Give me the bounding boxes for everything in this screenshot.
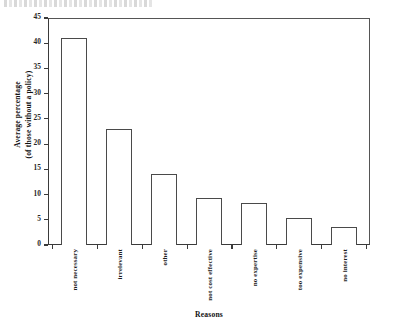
x-axis-category-label: no interest xyxy=(340,249,347,282)
bar[interactable] xyxy=(331,227,357,245)
y-tick-label: 10 xyxy=(33,189,41,198)
bar[interactable] xyxy=(196,198,222,245)
x-label-slot: not necessary xyxy=(52,247,97,309)
bar[interactable] xyxy=(241,203,267,245)
x-label-slot: no interest xyxy=(321,247,366,309)
bar[interactable] xyxy=(286,218,312,245)
x-label-slot: no expertise xyxy=(231,247,276,309)
y-tick-label: 35 xyxy=(33,62,41,71)
bar[interactable] xyxy=(151,174,177,245)
x-axis-category-label: not cost effective xyxy=(206,249,213,301)
y-tick-label: 15 xyxy=(33,163,41,172)
y-tick-label: 0 xyxy=(37,239,41,248)
x-axis-category-label: no expertise xyxy=(250,249,257,286)
bar-slot xyxy=(276,18,321,245)
y-tick-label: 45 xyxy=(33,12,41,21)
bar-series xyxy=(48,18,370,245)
bar-slot xyxy=(52,18,97,245)
bar-chart-figure: Average percentage (of those without a p… xyxy=(0,0,396,324)
x-axis-category-label: irrelevant xyxy=(116,249,123,279)
y-tick-label: 25 xyxy=(33,113,41,122)
x-axis-category-label: other xyxy=(161,249,168,265)
y-tick-label: 5 xyxy=(37,214,41,223)
x-axis-title: Reasons xyxy=(48,310,370,319)
y-tick-label: 20 xyxy=(33,138,41,147)
bar-slot xyxy=(142,18,187,245)
x-label-slot: too expensive xyxy=(276,247,321,309)
bar[interactable] xyxy=(106,129,132,245)
bar-slot xyxy=(97,18,142,245)
x-axis-category-label: too expensive xyxy=(295,249,302,290)
bar-slot xyxy=(231,18,276,245)
bar[interactable] xyxy=(61,38,87,245)
y-tick-label: 30 xyxy=(33,88,41,97)
bar-slot xyxy=(187,18,232,245)
x-label-slot: irrelevant xyxy=(97,247,142,309)
x-label-slot: other xyxy=(142,247,187,309)
bar-slot xyxy=(321,18,366,245)
x-label-slot: not cost effective xyxy=(187,247,232,309)
x-axis-labels: not necessaryirrelevantothernot cost eff… xyxy=(48,247,370,309)
y-axis-ticks: 051015202530354045 xyxy=(0,18,48,245)
y-tick-label: 40 xyxy=(33,37,41,46)
x-axis-category-label: not necessary xyxy=(71,249,78,291)
